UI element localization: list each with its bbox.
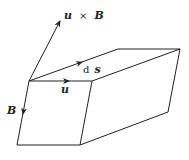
back-right-edge: [168, 49, 180, 112]
bottom-right-edge: [80, 112, 168, 145]
front-face: [17, 81, 92, 145]
u-cross-b-label: u × B: [64, 5, 104, 22]
ds-label: d s: [83, 59, 101, 76]
u-label: u: [61, 83, 69, 96]
b-label: B: [6, 104, 16, 117]
diagram-canvas: u × B d s u B: [0, 0, 189, 160]
